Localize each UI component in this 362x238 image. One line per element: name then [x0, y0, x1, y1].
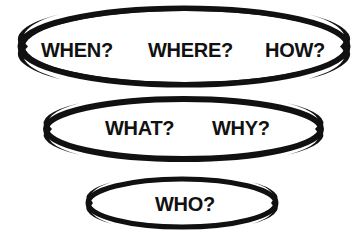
diagram-canvas: WHEN? WHERE? HOW? WHAT? WHY? WHO?	[0, 0, 362, 238]
ellipse-row-1	[18, 9, 350, 84]
ellipse-row-2	[44, 99, 324, 159]
ellipses-svg	[0, 0, 362, 238]
ellipse-row-3	[86, 179, 277, 227]
